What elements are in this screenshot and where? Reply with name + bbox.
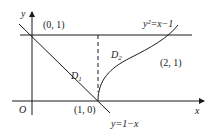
point-label-0-1: (0, 1) <box>43 19 65 31</box>
x-axis-label: x <box>194 105 200 116</box>
region-label-d1: D1 <box>70 70 82 83</box>
curve-label-line: y=1−x <box>110 118 139 129</box>
y-axis-label: y <box>20 8 26 19</box>
diagram-canvas: y x O (0, 1) (1, 0) (2, 1) y²=x−1 y=1−x … <box>0 0 211 137</box>
curve-label-parabola: y²=x−1 <box>142 18 173 29</box>
point-label-1-0: (1, 0) <box>74 104 96 116</box>
point-label-2-1: (2, 1) <box>160 57 182 69</box>
region-label-d2: D2 <box>110 49 122 62</box>
line-y-equals-1-minus-x <box>19 24 110 113</box>
origin-label: O <box>19 104 26 115</box>
